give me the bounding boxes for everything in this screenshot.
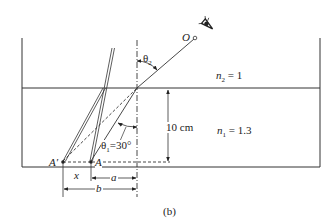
theta1-label: θ1=30° (101, 140, 131, 154)
observer-point (193, 36, 197, 40)
n1-value: = 1.3 (229, 124, 252, 136)
dimension-x-label: x (74, 170, 79, 181)
eye-icon (199, 15, 217, 32)
n1-subscript: 1 (223, 131, 227, 139)
refraction-diagram (0, 0, 335, 224)
n1-label: n1 = 1.3 (217, 125, 251, 139)
theta2-label: θ2 (143, 53, 152, 67)
point-a-prime-label: A′ (49, 157, 58, 168)
tank (22, 38, 320, 167)
depth-label: 10 cm (165, 122, 194, 133)
observer-label: O (182, 32, 190, 43)
theta1-value: =30° (110, 139, 132, 151)
n2-subscript: 2 (222, 76, 226, 84)
dimension-a-label: a (110, 172, 118, 183)
point-a-label: A (95, 157, 102, 168)
theta1-arc (118, 123, 137, 127)
n2-label: n2 = 1 (216, 70, 242, 84)
figure-caption: (b) (163, 206, 176, 217)
dimension-b-label: b (95, 183, 103, 194)
n2-value: = 1 (228, 69, 242, 81)
apparent-stick (63, 88, 106, 161)
theta2-subscript: 2 (148, 59, 152, 67)
